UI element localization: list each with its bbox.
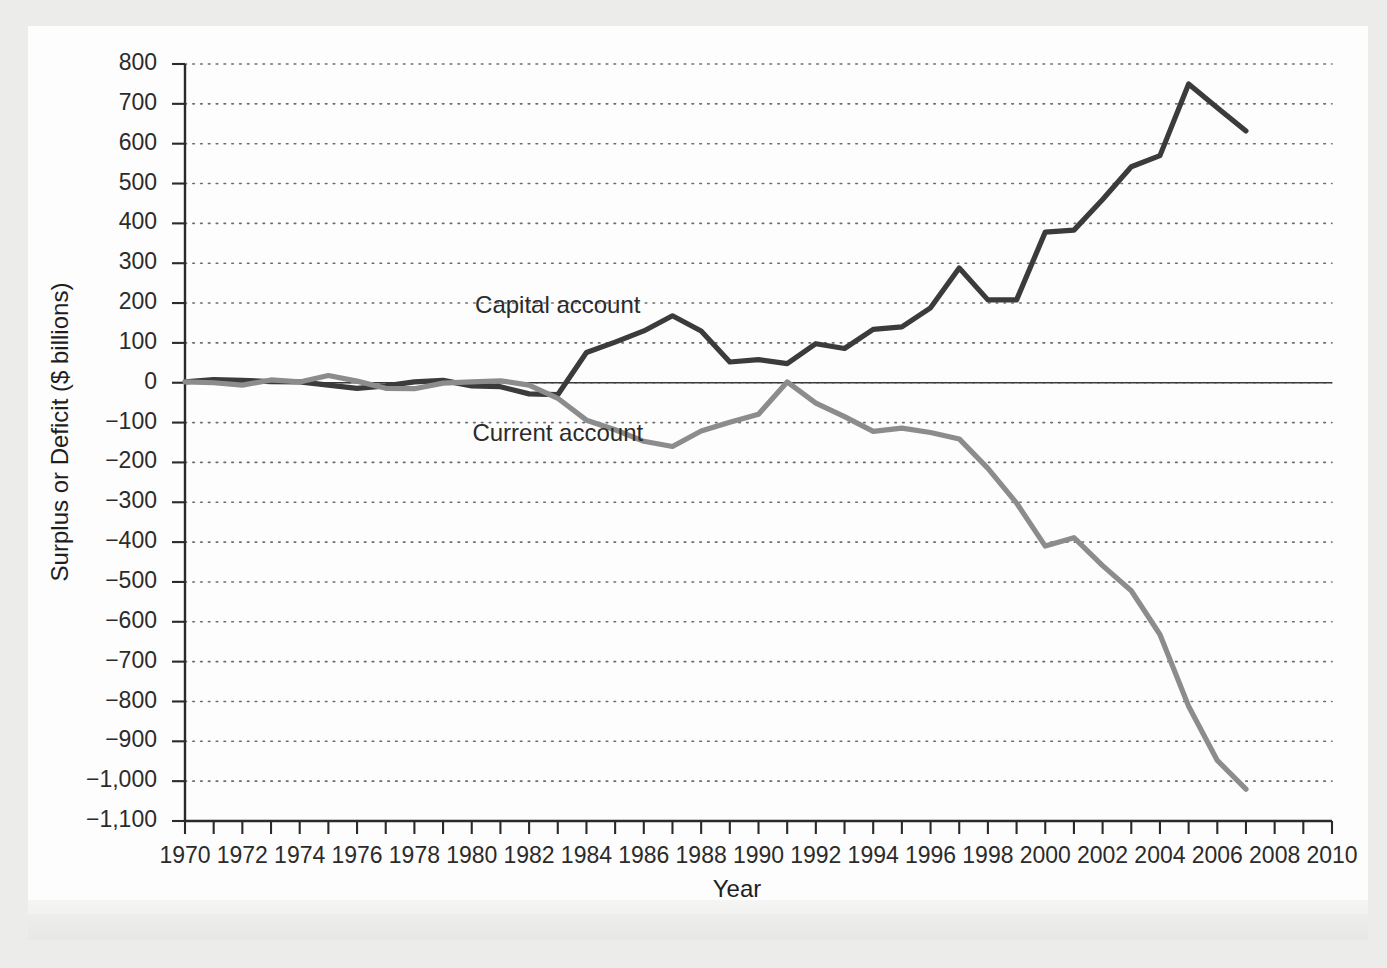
x-axis-tick-label: 1998 <box>962 842 1013 868</box>
y-axis-tick-label: 200 <box>119 288 157 314</box>
x-axis-tick-label: 1974 <box>274 842 325 868</box>
x-axis-tick-label: 2000 <box>1020 842 1071 868</box>
x-axis-tick-label: 1984 <box>561 842 612 868</box>
y-axis-tick-label: −500 <box>105 567 157 593</box>
series-label-current-account: Current account <box>472 419 643 446</box>
y-axis-tick-label: 100 <box>119 328 157 354</box>
y-axis-tick-labels: 8007006005004003002001000−100−200−300−40… <box>86 49 185 832</box>
x-axis-title: Year <box>713 875 762 902</box>
x-axis-tick-label: 1980 <box>446 842 497 868</box>
x-axis-tick-label: 2004 <box>1134 842 1185 868</box>
y-axis-tick-label: 0 <box>144 368 157 394</box>
x-axis-tick-label: 1988 <box>676 842 727 868</box>
x-axis-tick-label: 1986 <box>618 842 669 868</box>
y-axis-tick-label: −1,000 <box>86 766 157 792</box>
x-axis-tick-label: 1994 <box>848 842 899 868</box>
x-axis-tick-label: 2002 <box>1077 842 1128 868</box>
y-axis-tick-label: 800 <box>119 49 157 75</box>
series-line-capital-account <box>185 84 1246 395</box>
y-axis-tick-label: −800 <box>105 687 157 713</box>
y-axis-tick-label: 300 <box>119 248 157 274</box>
x-axis-tick-label: 2008 <box>1249 842 1300 868</box>
y-axis-tick-label: −900 <box>105 726 157 752</box>
line-chart: 8007006005004003002001000−100−200−300−40… <box>0 0 1387 968</box>
y-axis-tick-label: 400 <box>119 208 157 234</box>
y-axis-tick-label: 600 <box>119 129 157 155</box>
y-axis-tick-label: 700 <box>119 89 157 115</box>
y-axis-tick-label: −300 <box>105 487 157 513</box>
x-axis-tick-label: 1976 <box>331 842 382 868</box>
x-axis-tick-label: 2006 <box>1192 842 1243 868</box>
chart-page: 8007006005004003002001000−100−200−300−40… <box>0 0 1387 968</box>
x-axis-tick-label: 1978 <box>389 842 440 868</box>
gridlines <box>185 64 1332 781</box>
x-axis-tick-label: 1970 <box>159 842 210 868</box>
x-axis-tick-label: 1972 <box>217 842 268 868</box>
y-axis-title: Surplus or Deficit ($ billions) <box>46 283 73 582</box>
data-series <box>185 84 1246 789</box>
y-axis-tick-label: −700 <box>105 647 157 673</box>
y-axis-tick-label: −100 <box>105 408 157 434</box>
x-axis-tick-label: 1982 <box>504 842 555 868</box>
series-labels: Capital accountCurrent account <box>472 291 643 445</box>
chart-svg: 8007006005004003002001000−100−200−300−40… <box>0 0 1387 968</box>
y-axis-tick-label: −200 <box>105 447 157 473</box>
y-axis-tick-label: −1,100 <box>86 806 157 832</box>
x-axis-tick-labels: 1970197219741976197819801982198419861988… <box>159 842 1357 868</box>
x-axis-tick-label: 1996 <box>905 842 956 868</box>
y-axis-tick-label: −400 <box>105 527 157 553</box>
y-axis-tick-label: 500 <box>119 169 157 195</box>
axis-lines <box>185 64 1332 821</box>
y-axis-tick-label: −600 <box>105 607 157 633</box>
x-axis-ticks <box>185 821 1332 834</box>
x-axis-tick-label: 1990 <box>733 842 784 868</box>
x-axis-tick-label: 1992 <box>790 842 841 868</box>
series-label-capital-account: Capital account <box>475 291 641 318</box>
x-axis-tick-label: 2010 <box>1306 842 1357 868</box>
